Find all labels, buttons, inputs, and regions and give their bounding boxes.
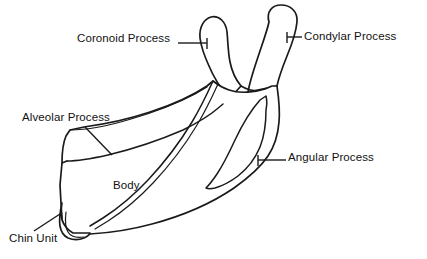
label-condylar-process: Condylar Process bbox=[304, 31, 396, 43]
label-coronoid-process: Coronoid Process bbox=[77, 33, 170, 45]
condylar-process-shape bbox=[248, 5, 297, 92]
chin-leader-line bbox=[34, 214, 60, 231]
label-alveolar-process: Alveolar Process bbox=[22, 112, 110, 124]
label-chin-unit: Chin Unit bbox=[9, 233, 57, 245]
label-angular-process: Angular Process bbox=[288, 152, 374, 164]
mandible-diagram: Coronoid Process Condylar Process Alveol… bbox=[0, 0, 427, 259]
label-body: Body bbox=[113, 180, 140, 192]
